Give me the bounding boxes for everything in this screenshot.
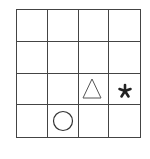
puzzle-grid	[16, 9, 141, 138]
grid-cell-r2-c2	[48, 42, 79, 74]
grid-cell-r4-c1	[17, 105, 48, 137]
grid-cell-r4-c3	[79, 105, 110, 137]
grid-cell-r2-c4	[109, 42, 140, 74]
asterisk-icon	[117, 83, 133, 99]
grid-cell-r3-c2	[48, 74, 79, 106]
triangle-icon	[82, 78, 102, 100]
grid-cell-r2-c3	[79, 42, 110, 74]
grid-cell-r3-c3	[79, 74, 110, 106]
grid-cell-r4-c2	[48, 105, 79, 137]
grid-cell-r1-c2	[48, 10, 79, 42]
grid-cell-r1-c4	[109, 10, 140, 42]
grid-cell-r1-c3	[79, 10, 110, 42]
circle-icon	[52, 110, 74, 132]
grid-cell-r4-c4	[109, 105, 140, 137]
grid-cell-r1-c1	[17, 10, 48, 42]
grid-cell-r3-c1	[17, 74, 48, 106]
grid-cell-r3-c4	[109, 74, 140, 106]
grid-cell-r2-c1	[17, 42, 48, 74]
